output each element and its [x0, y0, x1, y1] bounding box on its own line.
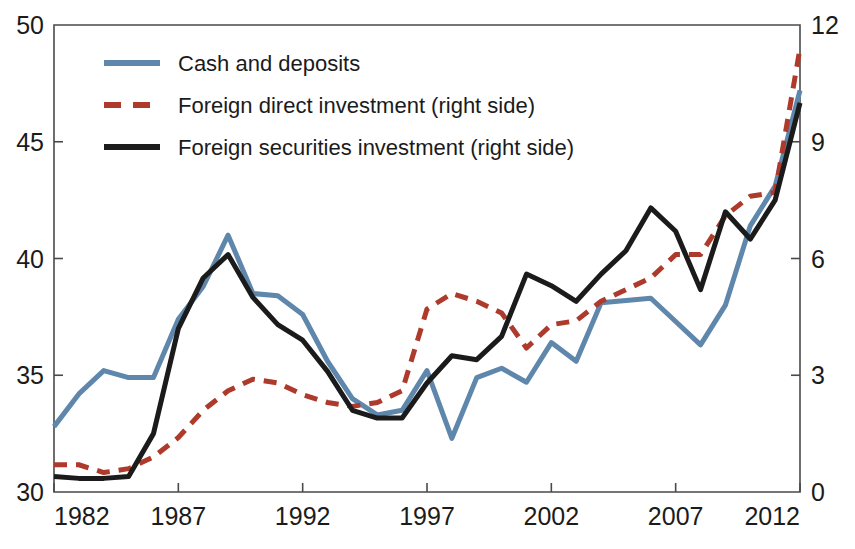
y-left-tick-label: 40	[16, 245, 44, 273]
line-chart: 1982198719921997200220072012 3035404550 …	[0, 0, 855, 549]
x-tick-label: 1992	[275, 502, 331, 530]
y-left-tick-label: 30	[16, 478, 44, 506]
y-axis-left-ticks	[54, 142, 63, 376]
x-tick-label: 2012	[744, 502, 800, 530]
y-right-tick-label: 3	[811, 361, 825, 389]
x-tick-label: 1987	[151, 502, 207, 530]
y-left-tick-label: 45	[16, 128, 44, 156]
y-right-tick-label: 0	[811, 478, 825, 506]
y-right-tick-label: 9	[811, 128, 825, 156]
legend-label-1: Foreign direct investment (right side)	[178, 93, 535, 118]
y-axis-right-tick-labels: 036912	[811, 11, 839, 506]
y-left-tick-label: 35	[16, 361, 44, 389]
x-tick-label: 1997	[399, 502, 455, 530]
x-axis-ticks	[54, 483, 800, 492]
x-axis-tick-labels: 1982198719921997200220072012	[54, 502, 800, 530]
y-axis-right-ticks	[791, 142, 800, 376]
y-right-tick-label: 12	[811, 11, 839, 39]
x-tick-label: 2002	[524, 502, 580, 530]
legend-label-2: Foreign securities investment (right sid…	[178, 135, 574, 160]
chart-container: 1982198719921997200220072012 3035404550 …	[0, 0, 855, 549]
x-tick-label: 1982	[54, 502, 110, 530]
y-right-tick-label: 6	[811, 245, 825, 273]
x-tick-label: 2007	[648, 502, 704, 530]
chart-legend: Cash and depositsForeign direct investme…	[104, 51, 574, 160]
legend-label-0: Cash and deposits	[178, 51, 360, 76]
y-left-tick-label: 50	[16, 11, 44, 39]
y-axis-left-tick-labels: 3035404550	[16, 11, 44, 506]
